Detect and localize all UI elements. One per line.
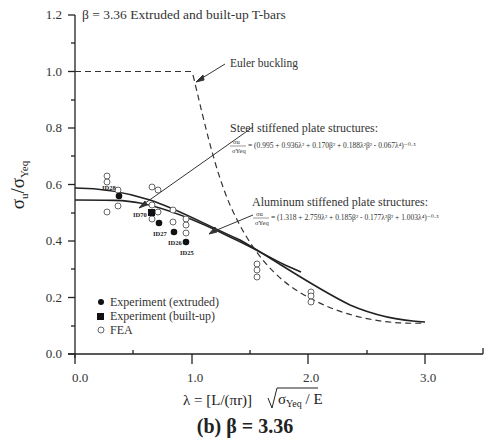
point-labels: ID28 ID70 ID27 ID26 ID25 [102, 184, 194, 256]
svg-text:1.0: 1.0 [187, 370, 203, 385]
svg-text:1.0: 1.0 [46, 64, 62, 79]
legend-builtup-marker [97, 313, 104, 320]
svg-text:0.2: 0.2 [46, 290, 62, 305]
svg-text:FEA: FEA [110, 323, 133, 337]
steel-equation: σu σYeq = (0.995 + 0.936λ² + 0.170β² + 0… [230, 138, 416, 154]
svg-text:σu: σu [256, 210, 264, 217]
svg-text:σYeq: σYeq [232, 147, 246, 154]
x-axis-label: λ = [L/(πr)] σYeq / E [183, 388, 323, 409]
svg-text:2.0: 2.0 [303, 370, 319, 385]
svg-text:σu/σYeq: σu/σYeq [7, 160, 30, 209]
svg-text:Experiment (extruded): Experiment (extruded) [110, 295, 219, 309]
svg-text:0.4: 0.4 [46, 233, 63, 248]
svg-text:ID27: ID27 [153, 230, 167, 237]
legend: Experiment (extruded) Experiment (built-… [97, 295, 219, 337]
svg-text:σu: σu [233, 138, 241, 145]
svg-text:= (1.318 + 2.759λ² + 0.185β² -: = (1.318 + 2.759λ² + 0.185β² - 0.177λ²β²… [271, 213, 439, 222]
svg-text:= (0.995 + 0.936λ² + 0.170β² +: = (0.995 + 0.936λ² + 0.170β² + 0.188λ²β²… [248, 141, 416, 150]
chart: 0.0 0.2 0.4 0.6 0.8 1.0 1.2 0.0 1.0 2.0 … [0, 0, 493, 439]
svg-text:ID28: ID28 [102, 184, 116, 191]
y-axis [68, 15, 75, 358]
svg-text:1.2: 1.2 [46, 7, 62, 22]
svg-text:ID25: ID25 [180, 249, 194, 256]
aluminum-title: Aluminum stiffened plate structures: [252, 195, 428, 209]
aluminum-equation: σu σYeq = (1.318 + 2.759λ² + 0.185β² - 0… [253, 210, 439, 226]
svg-text:Experiment (built-up): Experiment (built-up) [110, 309, 215, 323]
svg-text:ID26: ID26 [168, 239, 182, 246]
x-tick-labels: 0.0 1.0 2.0 3.0 [72, 370, 436, 385]
svg-text:0.0: 0.0 [72, 370, 88, 385]
figure-caption: (b) β = 3.36 [197, 415, 293, 438]
legend-extruded-marker [98, 299, 104, 305]
x-axis [68, 348, 483, 364]
steel-title: Steel stiffened plate structures: [230, 121, 378, 135]
chart-title: β = 3.36 Extruded and built-up T-bars [82, 7, 286, 22]
svg-text:σYeq / E: σYeq / E [278, 391, 323, 409]
y-tick-labels: 0.0 0.2 0.4 0.6 0.8 1.0 1.2 [46, 7, 63, 361]
svg-text:3.0: 3.0 [420, 370, 436, 385]
fea-points [104, 173, 314, 305]
svg-text:λ = [L/(πr)]: λ = [L/(πr)] [183, 392, 252, 409]
svg-text:σYeq: σYeq [255, 219, 269, 226]
legend-fea-marker [98, 327, 104, 333]
euler-label: Euler buckling [230, 57, 298, 70]
y-axis-label: σu/σYeq [7, 160, 30, 209]
experiment-builtup-point [148, 209, 155, 216]
svg-text:0.6: 0.6 [46, 177, 63, 192]
svg-text:0.8: 0.8 [46, 120, 62, 135]
svg-text:ID70: ID70 [133, 211, 147, 218]
svg-text:0.0: 0.0 [46, 346, 62, 361]
